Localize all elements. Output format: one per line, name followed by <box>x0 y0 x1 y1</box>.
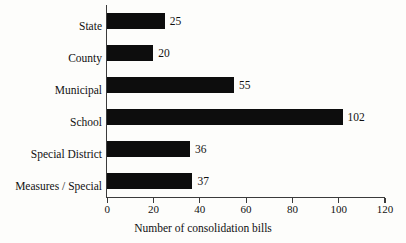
x-tick-mark-120 <box>384 198 385 203</box>
bar-value-measures-special: 37 <box>197 173 209 189</box>
y-axis-label-measures-special: Measures / Special <box>2 178 102 194</box>
x-tick-label-0: 0 <box>87 203 127 216</box>
x-tick-mark-100 <box>338 198 339 203</box>
x-tick-mark-20 <box>153 198 154 203</box>
x-tick-label-80: 80 <box>272 203 312 216</box>
x-tick-mark-0 <box>107 198 108 203</box>
x-tick-mark-80 <box>292 198 293 203</box>
x-axis-title: Number of consolidation bills <box>0 221 406 235</box>
x-tick-label-20: 20 <box>134 203 174 216</box>
y-axis-label-municipal: Municipal <box>2 82 102 98</box>
y-axis-label-state: State <box>2 18 102 34</box>
bar-value-school: 102 <box>348 109 365 125</box>
bar-measures-special <box>107 173 192 189</box>
bar-municipal <box>107 77 234 93</box>
bar-value-special-district: 36 <box>195 141 207 157</box>
bar-school <box>107 109 343 125</box>
y-axis-label-school: School <box>2 114 102 130</box>
y-axis-label-county: County <box>2 50 102 66</box>
bar-value-state: 25 <box>170 13 182 29</box>
bar-state <box>107 13 165 29</box>
bar-chart: State County Municipal School Special Di… <box>0 0 406 243</box>
bar-value-municipal: 55 <box>239 77 251 93</box>
bar-special-district <box>107 141 190 157</box>
x-tick-mark-60 <box>246 198 247 203</box>
y-axis-category-labels: State County Municipal School Special Di… <box>0 5 102 198</box>
bar-value-county: 20 <box>158 45 170 61</box>
x-tick-label-40: 40 <box>180 203 220 216</box>
x-tick-label-100: 100 <box>319 203 359 216</box>
x-tick-mark-40 <box>199 198 200 203</box>
plot-area: 25 20 55 102 36 37 <box>107 5 384 198</box>
y-axis-label-special-district: Special District <box>2 146 102 162</box>
x-tick-label-120: 120 <box>365 203 405 216</box>
bar-county <box>107 45 153 61</box>
x-tick-label-60: 60 <box>226 203 266 216</box>
